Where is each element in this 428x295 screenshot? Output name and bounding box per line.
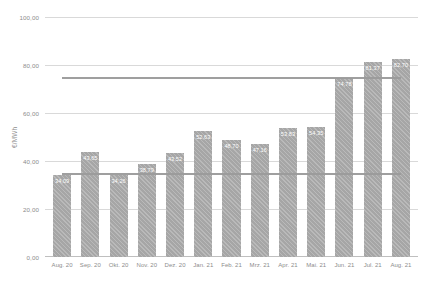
bar-feb-21: 48,70 [222, 140, 240, 257]
bar-value-label: 34,26 [111, 178, 125, 184]
y-axis-tick-0: 0,00 [0, 254, 39, 261]
x-axis-label-jan-21: Jan. 21 [189, 262, 217, 268]
bar-value-label: 47,16 [253, 147, 267, 153]
upper-reference-line [62, 77, 401, 79]
x-axis-label-sep-20: Sep. 20 [76, 262, 104, 268]
bar-value-label: 54,35 [309, 130, 323, 136]
bar-slot: 82,70 [387, 17, 415, 257]
bar-slot: 38,79 [133, 17, 161, 257]
bar-slot: 53,83 [274, 17, 302, 257]
bar-value-label: 53,83 [281, 131, 295, 137]
bar-value-label: 43,65 [83, 155, 97, 161]
bar-sep-20: 43,65 [81, 152, 99, 257]
y-axis-tick-40: 40,00 [0, 158, 39, 165]
bar-value-label: 48,70 [224, 143, 238, 149]
x-axis-label-aug-20: Aug. 20 [48, 262, 76, 268]
x-axis-label-mai-21: Mai. 21 [302, 262, 330, 268]
y-axis-title: €/MWh [11, 127, 18, 148]
y-axis-tick-80: 80,00 [0, 62, 39, 69]
x-axis-label-apr-21: Apr. 21 [274, 262, 302, 268]
bar-value-label: 74,78 [337, 81, 351, 87]
bar-jun-21: 74,78 [335, 78, 353, 257]
bar-slot: 52,63 [189, 17, 217, 257]
bar-apr-21: 53,83 [279, 128, 297, 257]
bar-slot: 43,65 [76, 17, 104, 257]
bar-value-label: 52,63 [196, 134, 210, 140]
x-axis-label-mrz-21: Mrz. 21 [246, 262, 274, 268]
bar-slot: 47,16 [246, 17, 274, 257]
bar-mrz-21: 47,16 [251, 144, 269, 257]
bar-value-label: 43,52 [168, 156, 182, 162]
x-axis-label-aug-21: Aug. 21 [387, 262, 415, 268]
bar-slot: 74,78 [330, 17, 358, 257]
x-axis-labels: Aug. 20 Sep. 20 Okt. 20 Nov. 20 Dez. 20 … [45, 262, 418, 268]
bar-value-label: 38,79 [140, 167, 154, 173]
y-axis-tick-60: 60,00 [0, 110, 39, 117]
bar-value-label: 34,09 [55, 178, 69, 184]
bar-aug-21: 82,70 [392, 59, 410, 257]
bar-slot: 48,70 [217, 17, 245, 257]
y-axis-tick-100: 100,00 [0, 14, 39, 21]
bar-series: 34,09 43,65 34,26 38,79 43,52 [45, 17, 418, 257]
bar-nov-20: 38,79 [138, 164, 156, 257]
x-axis-label-jun-21: Jun. 21 [330, 262, 358, 268]
bar-slot: 81,37 [359, 17, 387, 257]
x-axis-label-nov-20: Nov. 20 [133, 262, 161, 268]
x-axis-label-dez-20: Dez. 20 [161, 262, 189, 268]
x-axis-label-jul-21: Jul. 21 [359, 262, 387, 268]
bar-jan-21: 52,63 [194, 131, 212, 257]
bar-slot: 43,52 [161, 17, 189, 257]
bar-slot: 34,26 [104, 17, 132, 257]
lower-reference-line [62, 173, 401, 175]
y-axis-tick-20: 20,00 [0, 206, 39, 213]
x-axis-label-feb-21: Feb. 21 [217, 262, 245, 268]
bar-okt-20: 34,26 [110, 175, 128, 257]
bar-jul-21: 81,37 [364, 62, 382, 257]
bar-slot: 54,35 [302, 17, 330, 257]
bar-chart: €/MWh 100,00 80,00 60,00 40,00 20,00 0,0… [0, 0, 428, 295]
bar-dez-20: 43,52 [166, 153, 184, 257]
bar-value-label: 82,70 [394, 62, 408, 68]
bar-aug-20: 34,09 [53, 175, 71, 257]
bar-mai-21: 54,35 [307, 127, 325, 257]
bar-slot: 34,09 [48, 17, 76, 257]
bar-value-label: 81,37 [366, 65, 380, 71]
plot-area: 34,09 43,65 34,26 38,79 43,52 [45, 17, 418, 257]
x-axis-label-okt-20: Okt. 20 [104, 262, 132, 268]
